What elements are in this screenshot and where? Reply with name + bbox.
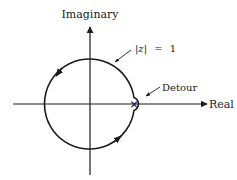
contour-label: |z| = 1 [135,43,176,55]
real-axis-label: Real [209,98,234,111]
imaginary-axis-label: Imaginary [61,8,119,21]
pole-marker: × [129,98,138,111]
detour-label: Detour [162,82,197,93]
contour-label-value: 1 [170,43,176,54]
contour-label-equals: = [154,43,162,54]
contour-label-pointer [115,50,131,62]
detour-label-pointer [146,87,160,96]
direction-arrow-lower-right [114,136,121,142]
contour-diagram: Imaginary Real × |z| = 1 Detour [0,0,237,180]
contour-label-modulus: |z| [135,43,147,55]
